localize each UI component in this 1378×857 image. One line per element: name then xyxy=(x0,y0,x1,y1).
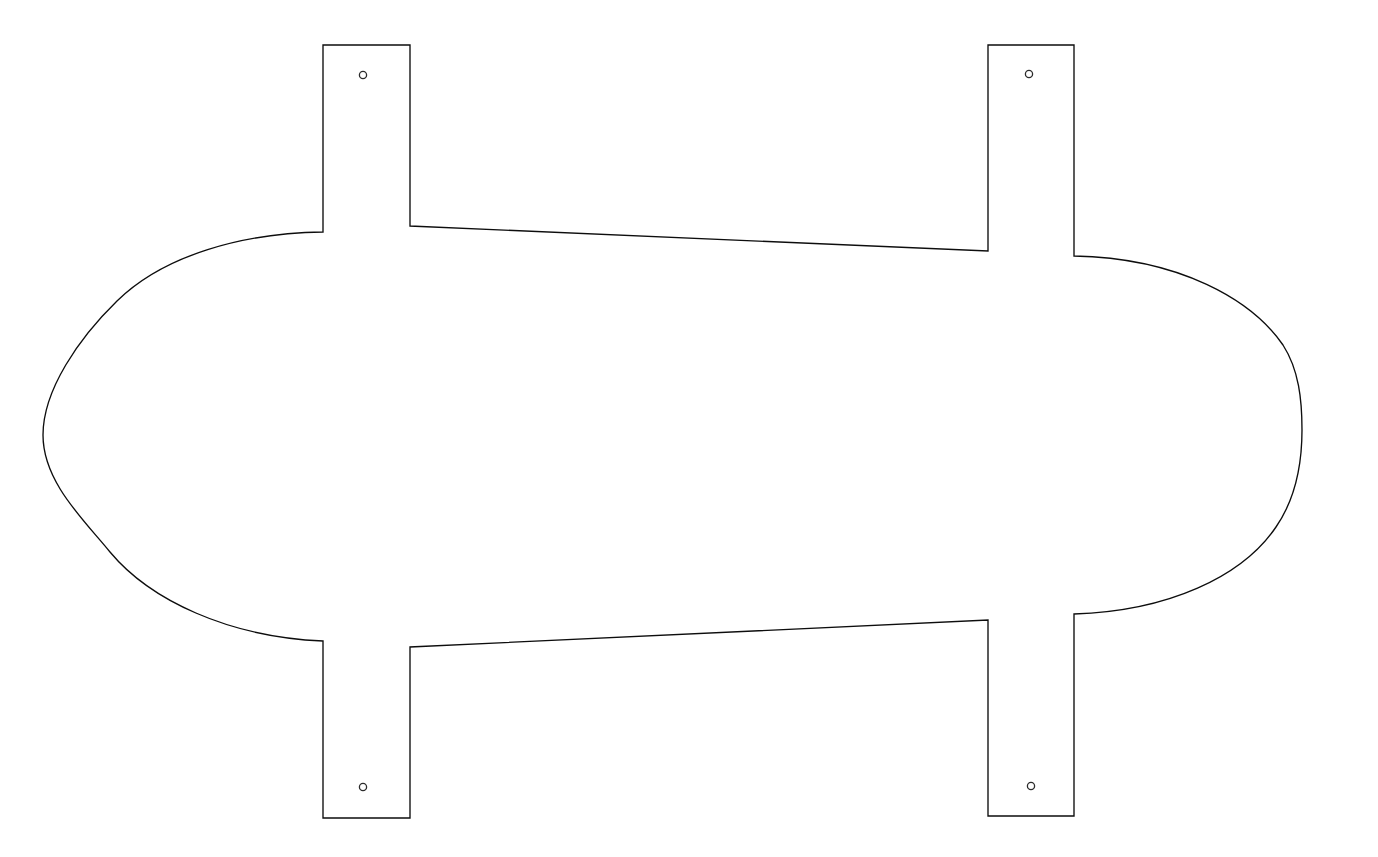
mounting-hole-top-right xyxy=(1025,70,1032,77)
technical-drawing-canvas xyxy=(0,0,1378,857)
mounting-hole-top-left xyxy=(359,71,366,78)
mounting-hole-bottom-left xyxy=(359,783,366,790)
mounting-hole-bottom-right xyxy=(1027,782,1034,789)
